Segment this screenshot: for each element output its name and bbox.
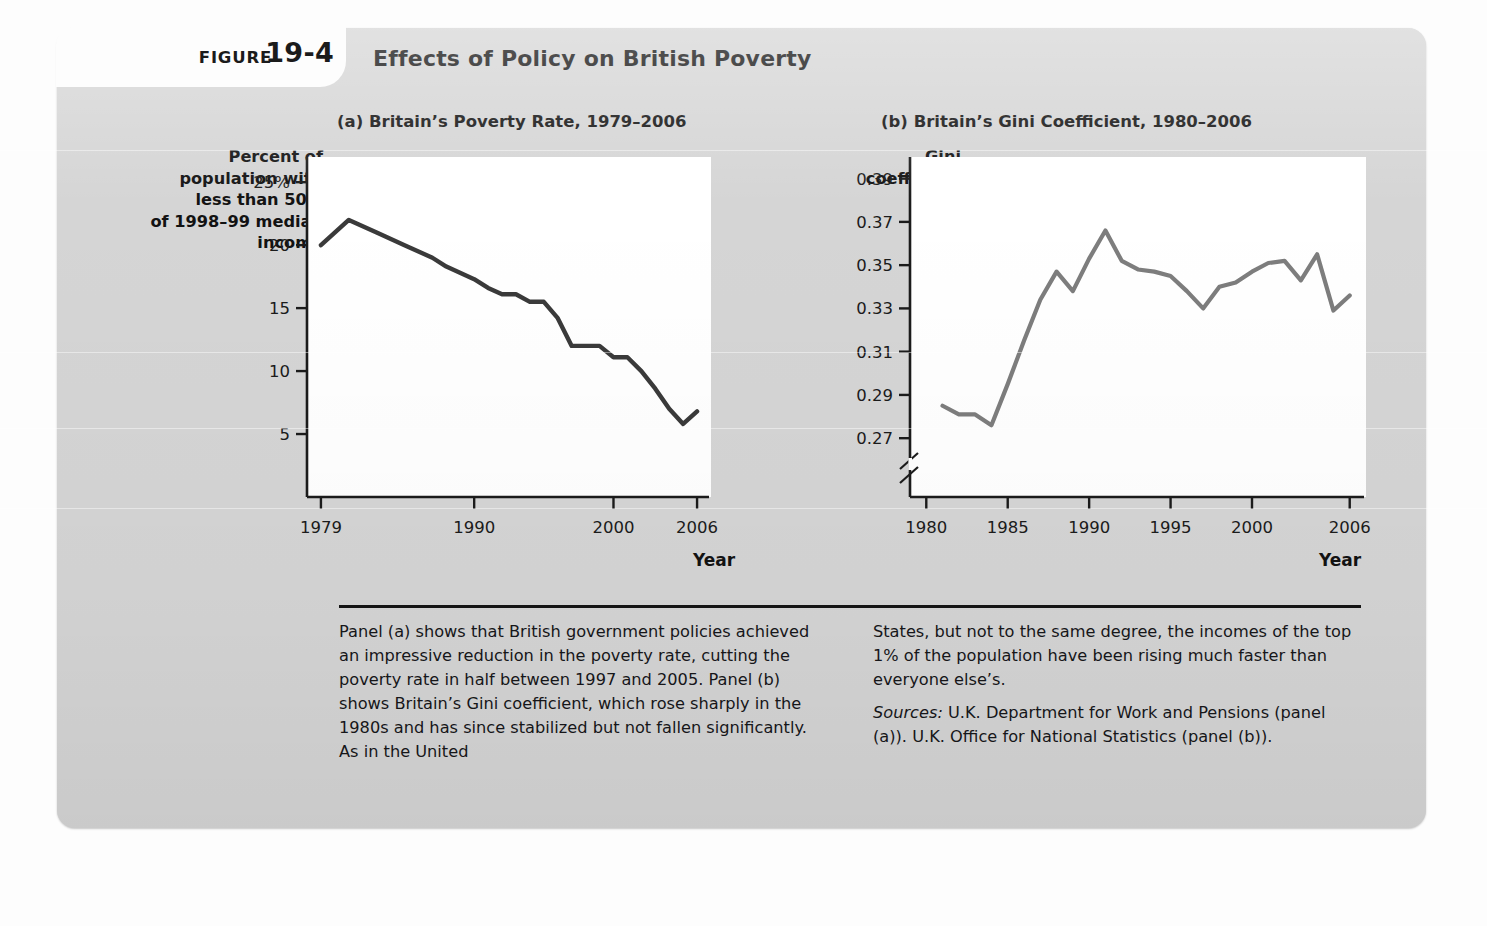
panel-b-y-tick-label: 0.39 (856, 170, 893, 189)
panel-b-y-tick-label: 0.29 (856, 386, 893, 405)
caption-divider (339, 605, 1361, 608)
panel-b-x-tick-label: 2000 (1231, 518, 1273, 537)
panel-a-y-tick-label: 10 (269, 362, 290, 381)
figure-tab-label: FIGURE (199, 48, 272, 67)
caption-text-2: States, but not to the same degree, the … (873, 620, 1363, 692)
caption-block: Panel (a) shows that British government … (339, 620, 1365, 764)
panel-b-x-tick-label: 1995 (1150, 518, 1192, 537)
sources-label: Sources: (873, 703, 943, 722)
panel-a-x-tick-label: 1990 (453, 518, 495, 537)
panel-b-x-axis-title: Year (1319, 550, 1361, 570)
panel-b-title: (b) Britain’s Gini Coefficient, 1980–200… (881, 112, 1252, 131)
caption-column-right: States, but not to the same degree, the … (873, 620, 1363, 764)
panel-a-plot: 510152025%1979199020002006 (259, 157, 711, 537)
panel-a-plot-area (307, 157, 711, 497)
panel-a-y-tick-label: 15 (269, 299, 290, 318)
caption-column-left: Panel (a) shows that British government … (339, 620, 829, 764)
panel-b-x-tick-label: 1985 (987, 518, 1029, 537)
panel-b-y-tick-label: 0.33 (856, 299, 893, 318)
panel-b-x-tick-label: 1980 (905, 518, 947, 537)
panel-b-x-tick-label: 1990 (1068, 518, 1110, 537)
panel-b-x-tick-label: 2006 (1329, 518, 1371, 537)
panel-b-y-tick-label: 0.35 (856, 256, 893, 275)
panel-b-y-tick-label: 0.31 (856, 343, 893, 362)
panel-a-y-tick-label: 5 (280, 425, 291, 444)
panel-b-y-tick-label: 0.27 (856, 429, 893, 448)
panel-b-plot: 0.270.290.310.330.350.370.39198019851990… (862, 157, 1366, 537)
panel-b-plot-area (910, 157, 1366, 497)
panel-a-y-tick-label: 20 (269, 236, 290, 255)
figure-title: Effects of Policy on British Poverty (373, 46, 812, 71)
panel-a-title: (a) Britain’s Poverty Rate, 1979–2006 (337, 112, 687, 131)
figure-card: FIGURE 19-4 Effects of Policy on British… (57, 28, 1426, 828)
figure-number: 19-4 (265, 37, 334, 68)
page-root: FIGURE 19-4 Effects of Policy on British… (0, 0, 1487, 926)
sources-note: Sources: U.K. Department for Work and Pe… (873, 701, 1363, 749)
panel-b-chart: 0.270.290.310.330.350.370.39198019851990… (862, 157, 1366, 537)
panel-a-x-tick-label: 2000 (592, 518, 634, 537)
panel-a-y-tick-label: 25% (253, 173, 290, 192)
panel-a-x-tick-label: 2006 (676, 518, 718, 537)
panel-a-x-axis-title: Year (693, 550, 735, 570)
panel-a-x-tick-label: 1979 (300, 518, 342, 537)
panel-b-y-tick-label: 0.37 (856, 213, 893, 232)
panel-a-chart: 510152025%1979199020002006 (259, 157, 711, 537)
figure-number-tab: FIGURE 19-4 (56, 27, 346, 87)
caption-text-1: Panel (a) shows that British government … (339, 620, 829, 764)
